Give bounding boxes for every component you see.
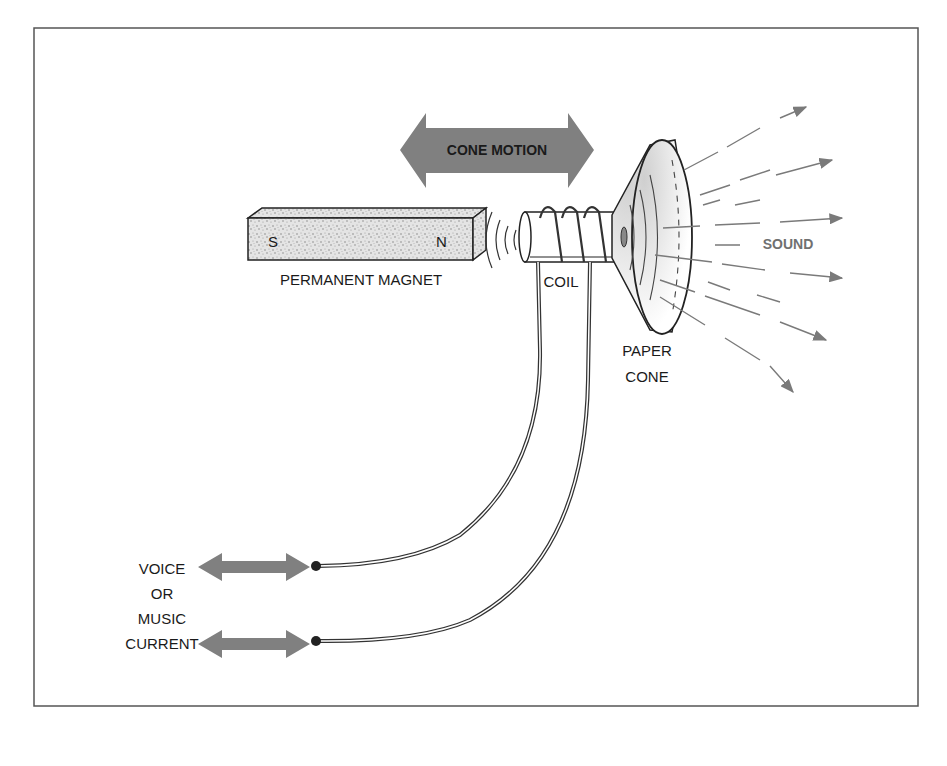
input-arrow-upper (198, 553, 310, 581)
terminal-lower (311, 636, 321, 646)
cone-motion-label: CONE MOTION (447, 142, 547, 158)
permanent-magnet: S N (248, 208, 486, 260)
speaker-diagram: CONE MOTION S N PERMANENT MAGNET COIL (0, 0, 947, 766)
magnet-south-pole: S (268, 233, 278, 250)
coil-wires (318, 262, 590, 641)
magnetic-field-arcs (486, 212, 516, 268)
input-label: VOICE OR MUSIC CURRENT (125, 560, 198, 652)
magnet-north-pole: N (436, 233, 447, 250)
input-label-line2: OR (151, 585, 174, 602)
permanent-magnet-label: PERMANENT MAGNET (280, 271, 442, 288)
input-label-line3: MUSIC (138, 610, 187, 627)
terminal-upper (311, 561, 321, 571)
voice-coil (519, 207, 615, 262)
paper-cone (612, 140, 692, 334)
cone-motion-arrow: CONE MOTION (400, 113, 594, 188)
paper-cone-label-line1: PAPER (622, 342, 672, 359)
input-arrow-lower (198, 630, 310, 658)
input-label-line1: VOICE (139, 560, 186, 577)
coil-label: COIL (543, 273, 578, 290)
input-label-line4: CURRENT (125, 635, 198, 652)
paper-cone-label-line2: CONE (625, 368, 668, 385)
sound-label: SOUND (763, 236, 814, 252)
